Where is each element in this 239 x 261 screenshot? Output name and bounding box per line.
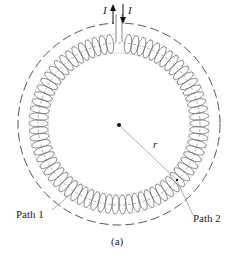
radius-label: r xyxy=(153,138,158,150)
coil-turn xyxy=(182,83,202,98)
lead-gap xyxy=(114,22,124,40)
coil-turn xyxy=(136,191,148,211)
current-label-up: I xyxy=(102,4,108,16)
coil-turn xyxy=(76,42,91,62)
coil-turn xyxy=(131,193,142,213)
coil-turn xyxy=(129,35,140,55)
coil-turn xyxy=(63,49,80,69)
coil-turn xyxy=(89,191,101,211)
center-dot xyxy=(117,123,121,127)
coil-turn xyxy=(147,42,162,62)
current-label-down: I xyxy=(127,4,133,16)
coil-turn xyxy=(83,39,97,59)
coil-turn xyxy=(31,97,51,109)
path-1-label: Path 1 xyxy=(16,208,44,220)
path-2-leader-line xyxy=(177,181,193,215)
toroid-diagram: r I I Path 1 Path 2 (a) xyxy=(0,0,239,261)
coil-turn xyxy=(36,83,56,98)
coil-turn xyxy=(187,97,207,109)
coil-turn xyxy=(175,70,195,87)
coil-turn xyxy=(185,144,205,157)
radius-line xyxy=(119,125,178,181)
coil-turn xyxy=(98,35,109,55)
coil-turn xyxy=(184,90,204,103)
coil-turn xyxy=(112,195,120,214)
coil-turn xyxy=(158,49,175,69)
coil-turn xyxy=(141,39,155,59)
radius-end-dot xyxy=(176,179,178,181)
coil-turn xyxy=(187,138,207,150)
coil-turn xyxy=(33,90,53,103)
current-arrow-down-icon xyxy=(120,4,126,24)
coil-turn xyxy=(90,37,102,57)
coil-turn xyxy=(148,186,163,206)
coil-turn xyxy=(29,120,48,127)
coil-turn xyxy=(190,120,209,127)
current-arrow-up-icon xyxy=(110,4,116,24)
coil-turn xyxy=(33,144,53,157)
coil-turn xyxy=(135,37,147,57)
coil-turn xyxy=(182,150,202,164)
coil-turn xyxy=(142,188,156,208)
coil-turn xyxy=(35,150,55,164)
coil-turn xyxy=(43,70,63,87)
coil-turn xyxy=(96,193,107,213)
coil-turn xyxy=(31,138,51,150)
coil-turn xyxy=(118,195,126,214)
figure-caption: (a) xyxy=(111,235,124,248)
path-2-label: Path 2 xyxy=(193,212,221,224)
coil-turn xyxy=(75,186,90,206)
coil-turn xyxy=(82,188,96,208)
